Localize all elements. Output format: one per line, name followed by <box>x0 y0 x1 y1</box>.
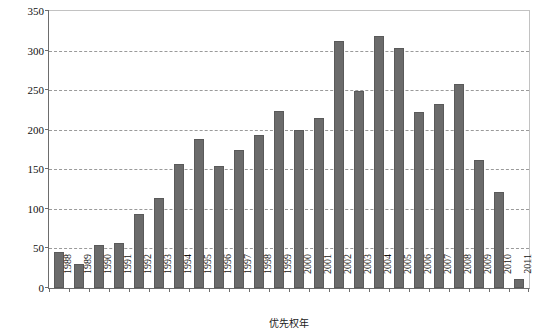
bar-2005 <box>394 48 404 288</box>
x-tick-label-1990: 1990 <box>103 254 113 294</box>
bar-chart-figure: 专利申请量/件 05010015020025030035019881989199… <box>0 0 543 334</box>
x-tick-mark-1993 <box>149 288 150 292</box>
x-tick-label-2007: 2007 <box>443 254 453 294</box>
x-tick-label-2008: 2008 <box>463 254 473 294</box>
y-tick-mark-350 <box>45 10 49 11</box>
x-tick-mark-1992 <box>129 288 130 292</box>
y-tick-mark-100 <box>45 208 49 209</box>
x-tick-label-1996: 1996 <box>223 254 233 294</box>
x-tick-mark-1999 <box>269 288 270 292</box>
x-tick-label-1988: 1988 <box>63 254 73 294</box>
x-tick-mark-1997 <box>229 288 230 292</box>
x-tick-mark-1991 <box>109 288 110 292</box>
x-tick-label-2002: 2002 <box>343 254 353 294</box>
x-tick-label-1991: 1991 <box>123 254 133 294</box>
x-axis-title: 优先权年 <box>48 318 530 330</box>
x-tick-mark-2003 <box>349 288 350 292</box>
x-tick-label-2010: 2010 <box>503 254 513 294</box>
x-tick-label-2001: 2001 <box>323 254 333 294</box>
x-tick-label-2004: 2004 <box>383 254 393 294</box>
x-tick-mark-end <box>528 288 529 292</box>
y-tick-label-350: 350 <box>28 6 45 17</box>
x-tick-label-1989: 1989 <box>83 254 93 294</box>
y-tick-label-250: 250 <box>28 85 45 96</box>
x-tick-label-1992: 1992 <box>143 254 153 294</box>
x-tick-mark-2005 <box>389 288 390 292</box>
x-tick-label-2009: 2009 <box>483 254 493 294</box>
x-tick-mark-2001 <box>309 288 310 292</box>
y-tick-label-0: 0 <box>39 283 45 294</box>
bar-2002 <box>334 41 344 288</box>
x-tick-mark-2011 <box>509 288 510 292</box>
x-tick-mark-2000 <box>289 288 290 292</box>
y-tick-label-200: 200 <box>28 124 45 135</box>
x-tick-label-1995: 1995 <box>203 254 213 294</box>
plot-area: 0501001502002503003501988198919901991199… <box>48 10 530 289</box>
x-tick-mark-2002 <box>329 288 330 292</box>
y-tick-mark-250 <box>45 89 49 90</box>
x-tick-mark-1989 <box>69 288 70 292</box>
y-tick-mark-150 <box>45 168 49 169</box>
x-tick-mark-2009 <box>469 288 470 292</box>
x-tick-mark-1990 <box>89 288 90 292</box>
x-tick-mark-2008 <box>449 288 450 292</box>
x-tick-label-1994: 1994 <box>183 254 193 294</box>
x-tick-label-1993: 1993 <box>163 254 173 294</box>
x-tick-mark-2010 <box>489 288 490 292</box>
gridline-y-300 <box>49 51 529 52</box>
y-tick-label-50: 50 <box>33 243 44 254</box>
x-tick-label-2005: 2005 <box>403 254 413 294</box>
x-tick-mark-1988 <box>49 288 50 292</box>
y-tick-mark-200 <box>45 129 49 130</box>
x-tick-label-2006: 2006 <box>423 254 433 294</box>
y-tick-label-100: 100 <box>28 203 45 214</box>
x-tick-label-1997: 1997 <box>243 254 253 294</box>
x-tick-mark-1995 <box>189 288 190 292</box>
clipped-top-caption <box>8 0 528 7</box>
x-tick-label-1999: 1999 <box>283 254 293 294</box>
x-tick-label-2003: 2003 <box>363 254 373 294</box>
x-tick-mark-2006 <box>409 288 410 292</box>
y-tick-mark-50 <box>45 247 49 248</box>
x-tick-mark-1994 <box>169 288 170 292</box>
y-tick-mark-300 <box>45 50 49 51</box>
x-tick-mark-2004 <box>369 288 370 292</box>
x-tick-label-1998: 1998 <box>263 254 273 294</box>
x-tick-mark-2007 <box>429 288 430 292</box>
bar-2004 <box>374 36 384 288</box>
y-tick-label-300: 300 <box>28 45 45 56</box>
x-tick-mark-1996 <box>209 288 210 292</box>
y-tick-label-150: 150 <box>28 164 45 175</box>
x-tick-mark-1998 <box>249 288 250 292</box>
x-tick-label-2000: 2000 <box>303 254 313 294</box>
